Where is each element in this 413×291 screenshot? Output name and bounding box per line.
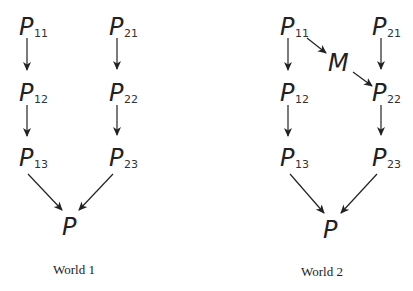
svg-text:P: P (280, 13, 295, 41)
node-p21: P 21 (372, 13, 401, 41)
svg-text:P: P (19, 79, 34, 107)
caption-world-2: World 2 (301, 264, 343, 279)
node-m: M (328, 49, 349, 77)
node-p: P (62, 213, 77, 241)
svg-text:P: P (19, 144, 34, 172)
svg-text:21: 21 (124, 27, 138, 40)
svg-text:13: 13 (295, 158, 309, 171)
svg-text:P: P (372, 79, 387, 107)
node-p21: P 21 (109, 13, 138, 41)
svg-text:23: 23 (124, 158, 138, 171)
svg-text:P: P (372, 144, 387, 172)
svg-text:P: P (280, 79, 295, 107)
svg-text:P: P (323, 216, 338, 244)
svg-text:M: M (328, 49, 349, 77)
node-p13: P 13 (19, 144, 48, 172)
svg-text:P: P (62, 213, 77, 241)
svg-text:21: 21 (387, 27, 401, 40)
svg-text:13: 13 (34, 158, 48, 171)
svg-text:12: 12 (295, 93, 309, 106)
svg-text:11: 11 (34, 27, 48, 40)
node-p22: P 22 (372, 79, 401, 107)
node-p12: P 12 (19, 79, 48, 107)
svg-text:23: 23 (387, 158, 401, 171)
svg-text:P: P (109, 79, 124, 107)
node-p23: P 23 (372, 144, 401, 172)
svg-text:P: P (19, 13, 34, 41)
caption-world-1: World 1 (53, 262, 95, 277)
node-p22: P 22 (109, 79, 138, 107)
svg-text:P: P (372, 13, 387, 41)
edge-m-p22 (353, 72, 372, 86)
svg-text:22: 22 (124, 93, 138, 106)
edge-p13-p (290, 174, 324, 213)
node-p: P (323, 216, 338, 244)
world-1: P 11 P 21 P 12 P 22 P 13 P 23 P (19, 13, 138, 277)
edge-p23-p (79, 174, 113, 210)
causal-diagram: P 11 P 21 P 12 P 22 P 13 P 23 P (0, 0, 413, 291)
svg-text:P: P (280, 144, 295, 172)
svg-text:22: 22 (387, 93, 401, 106)
svg-text:P: P (109, 144, 124, 172)
edge-p23-p (341, 174, 377, 213)
node-p11: P 11 (280, 13, 309, 41)
svg-text:P: P (109, 13, 124, 41)
node-p12: P 12 (280, 79, 309, 107)
svg-text:11: 11 (295, 27, 309, 40)
edge-p11-m (307, 38, 326, 53)
svg-text:12: 12 (34, 93, 48, 106)
node-p13: P 13 (280, 144, 309, 172)
node-p11: P 11 (19, 13, 48, 41)
edge-p13-p (28, 174, 62, 210)
world-2: P 11 P 21 M P 12 P 22 P 13 P 23 P (280, 13, 401, 279)
node-p23: P 23 (109, 144, 138, 172)
